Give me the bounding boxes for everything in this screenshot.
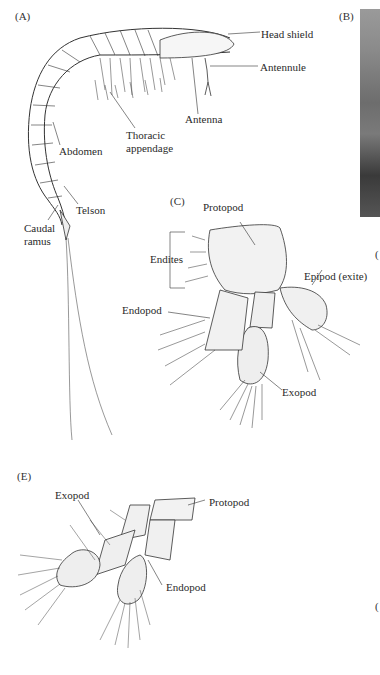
panel-b-photograph bbox=[360, 9, 380, 217]
panel-b-label: (B) bbox=[339, 10, 354, 22]
label-e-exopod: Exopod bbox=[55, 489, 89, 501]
panel-e-label: (E) bbox=[17, 470, 31, 482]
panel-c-label: (C) bbox=[170, 195, 185, 207]
panel-d-edge-label: ( bbox=[375, 248, 379, 260]
crustacean-body bbox=[28, 28, 230, 225]
label-caudal-line2: ramus bbox=[24, 235, 51, 247]
label-c-epipod: Epipod (exite) bbox=[304, 270, 367, 282]
label-thoracic-line2: appendage bbox=[126, 142, 173, 154]
label-c-exopod: Exopod bbox=[282, 386, 316, 398]
label-telson: Telson bbox=[76, 204, 105, 216]
panel-a-label: (A) bbox=[15, 10, 30, 22]
label-c-endites: Endites bbox=[150, 253, 183, 265]
label-c-protopod: Protopod bbox=[203, 201, 243, 213]
label-c-endopod: Endopod bbox=[122, 304, 162, 316]
label-e-protopod: Protopod bbox=[209, 496, 249, 508]
label-antenna: Antenna bbox=[185, 113, 222, 125]
phyllopod-limb bbox=[158, 222, 360, 428]
label-head-shield: Head shield bbox=[261, 28, 313, 40]
figure-illustration bbox=[0, 0, 380, 675]
label-e-endopod: Endopod bbox=[166, 581, 206, 593]
label-antennule: Antennule bbox=[260, 61, 306, 73]
biramous-limb bbox=[18, 498, 205, 648]
head-shield-shape bbox=[160, 32, 234, 58]
label-caudal-line1: Caudal bbox=[24, 222, 55, 234]
panel-f-edge-label: ( bbox=[375, 600, 379, 612]
label-thoracic-line1: Thoracic bbox=[126, 129, 165, 141]
label-abdomen: Abdomen bbox=[59, 145, 102, 157]
